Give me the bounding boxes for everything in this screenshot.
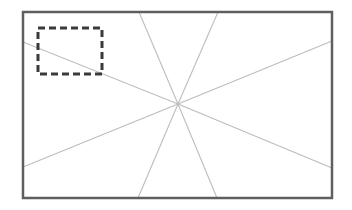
crop-guide-canvas bbox=[0, 0, 352, 210]
crop-guide-diagram bbox=[0, 0, 352, 210]
dashed-selection-rectangle[interactable] bbox=[38, 28, 102, 74]
radial-guide-lines bbox=[23, 12, 332, 198]
